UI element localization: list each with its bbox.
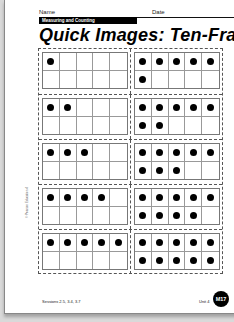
dot-icon (81, 239, 88, 246)
dashed-divider (130, 49, 131, 94)
frame-cell (169, 99, 186, 117)
dot-icon (156, 122, 163, 129)
frame-cell (77, 234, 94, 252)
frame-cell (169, 252, 186, 270)
frame-cell (152, 144, 169, 162)
dot-icon (139, 194, 146, 201)
dot-icon (190, 104, 197, 111)
frame-cell (185, 234, 202, 252)
frame-cell (43, 234, 60, 252)
frame-cell (43, 71, 60, 89)
dot-icon (190, 257, 197, 264)
frame-cell (77, 207, 94, 225)
dot-icon (156, 239, 163, 246)
dot-icon (47, 239, 54, 246)
dot-icon (139, 149, 146, 156)
frame-cell (152, 53, 169, 71)
frame-cell (185, 189, 202, 207)
dot-icon (190, 212, 197, 219)
frame-cell (202, 71, 219, 89)
frame-cell (110, 53, 127, 71)
copyright-text: © Pearson Education 4 (25, 187, 29, 218)
frame-cell (185, 207, 202, 225)
frame-cell (185, 99, 202, 117)
dot-icon (156, 212, 163, 219)
dot-icon (207, 58, 214, 65)
ten-frame-right (134, 233, 220, 270)
ten-frame-left (42, 52, 128, 89)
dashed-divider (130, 140, 131, 184)
dot-icon (207, 104, 214, 111)
dot-icon (81, 194, 88, 201)
ten-frame-row (39, 184, 222, 229)
dot-icon (64, 149, 71, 156)
frame-cell (185, 144, 202, 162)
frame-cell (110, 207, 127, 225)
frame-cell (110, 99, 127, 117)
frame-cell (60, 162, 77, 180)
frame-cell (185, 252, 202, 270)
frame-cell (77, 189, 94, 207)
sessions-label: Sessions 2.5, 3.4, 3.7 (42, 299, 80, 304)
frame-cell (202, 252, 219, 270)
frame-cell (43, 162, 60, 180)
frame-cell (60, 189, 77, 207)
frame-cell (110, 252, 127, 270)
frame-cell (77, 71, 94, 89)
frame-cell (93, 71, 110, 89)
dot-icon (173, 58, 180, 65)
dashed-divider (130, 230, 131, 274)
frame-cell (93, 189, 110, 207)
frame-cell (169, 71, 186, 89)
page-number-badge: M17 (213, 291, 229, 307)
dot-icon (156, 104, 163, 111)
frame-cell (110, 234, 127, 252)
frame-cell (110, 189, 127, 207)
frame-cell (77, 117, 94, 135)
frame-cell (60, 99, 77, 117)
frame-cell (169, 144, 186, 162)
frame-cell (93, 207, 110, 225)
frame-cell (169, 207, 186, 225)
frame-cell (202, 234, 219, 252)
frame-cell (202, 207, 219, 225)
dot-icon (173, 167, 180, 174)
frame-cell (60, 234, 77, 252)
frame-cell (202, 117, 219, 135)
dot-icon (173, 257, 180, 264)
dot-icon (207, 194, 214, 201)
dot-icon (139, 212, 146, 219)
frame-cell (93, 53, 110, 71)
frame-cell (43, 99, 60, 117)
frame-cell (43, 144, 60, 162)
dot-icon (207, 239, 214, 246)
dashed-divider (130, 185, 131, 229)
frame-cell (110, 144, 127, 162)
frame-cell (202, 99, 219, 117)
frame-cell (152, 252, 169, 270)
frame-cell (93, 234, 110, 252)
dot-icon (156, 149, 163, 156)
dot-icon (98, 239, 105, 246)
unit-label: Unit 4 (199, 299, 209, 304)
frame-cell (152, 207, 169, 225)
frame-cell (135, 71, 152, 89)
dot-icon (115, 239, 122, 246)
dot-icon (64, 239, 71, 246)
frame-cell (169, 189, 186, 207)
frame-cell (77, 99, 94, 117)
frame-cell (169, 53, 186, 71)
frame-cell (60, 252, 77, 270)
frame-cell (169, 234, 186, 252)
frame-cell (185, 53, 202, 71)
ten-frame-right (134, 143, 220, 180)
dot-icon (47, 58, 54, 65)
frame-cell (135, 99, 152, 117)
ten-frame-row (39, 139, 222, 184)
frame-cell (185, 162, 202, 180)
ten-frame-row (39, 49, 222, 94)
name-label: Name (39, 9, 55, 15)
frame-cell (202, 162, 219, 180)
frame-cell (60, 207, 77, 225)
dot-icon (139, 104, 146, 111)
